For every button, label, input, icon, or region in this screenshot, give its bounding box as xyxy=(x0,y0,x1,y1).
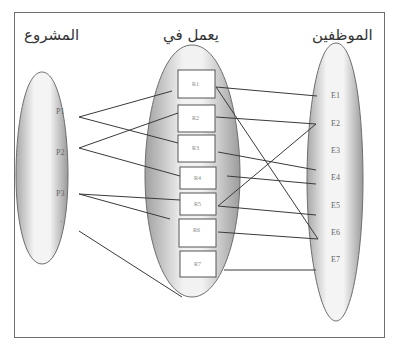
employee-label-e6: E6 xyxy=(331,228,340,237)
relation-label-r5: R5 xyxy=(194,201,201,207)
relation-label-r1: R1 xyxy=(192,81,199,87)
relation-label-r4: R4 xyxy=(194,175,201,181)
employee-label-e2: E2 xyxy=(331,119,340,128)
employee-label-e1: E1 xyxy=(331,91,340,100)
er-mapping-diagram: R1 R2 R3 R4 R5 R6 R7 P1 P2 P3 . E1 E2 E3… xyxy=(0,0,396,348)
relation-label-r7: R7 xyxy=(194,261,201,267)
employees-set-ellipse xyxy=(307,43,363,321)
project-label-ellipsis: . xyxy=(60,215,62,224)
relation-label-r2: R2 xyxy=(192,115,199,121)
relation-label-r6: R6 xyxy=(193,227,200,233)
employee-label-e3: E3 xyxy=(331,146,340,155)
relation-box-r6 xyxy=(179,219,216,247)
employee-label-e4: E4 xyxy=(331,173,340,182)
employee-label-e5: E5 xyxy=(331,201,340,210)
edge-r1-e1 xyxy=(216,87,317,96)
employee-label-e7: E7 xyxy=(331,255,340,264)
project-label-p2: P2 xyxy=(56,148,64,157)
project-label-p3: P3 xyxy=(56,189,64,198)
projects-set-ellipse xyxy=(16,72,68,264)
relation-label-r3: R3 xyxy=(192,145,199,151)
project-label-p1: P1 xyxy=(56,107,64,116)
